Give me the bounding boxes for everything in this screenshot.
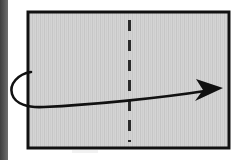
bottom-scan-smudge — [72, 150, 98, 153]
left-scan-edge-strip — [0, 0, 8, 160]
diagram-canvas — [0, 0, 242, 160]
fold-diagram-figure: Paper folding step diagram — [0, 0, 242, 160]
